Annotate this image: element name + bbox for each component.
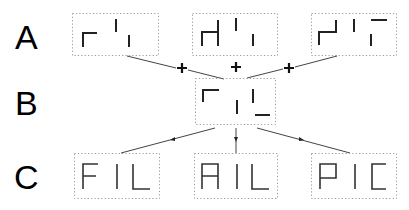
box-c1 bbox=[75, 154, 160, 199]
connector-b-c1 bbox=[121, 128, 215, 153]
box-a2 bbox=[193, 14, 278, 56]
box-c2 bbox=[195, 154, 278, 199]
plus-icon bbox=[177, 63, 187, 73]
connector-b-c3 bbox=[257, 128, 350, 153]
connector-a1-b bbox=[127, 56, 224, 79]
box-a1 bbox=[73, 14, 159, 56]
box-c3 bbox=[312, 154, 397, 199]
arrow-head-icon bbox=[170, 137, 175, 141]
plus-icon bbox=[231, 62, 241, 72]
connector-b-c2 bbox=[234, 128, 238, 153]
diagram-canvas bbox=[0, 0, 409, 210]
box-a3 bbox=[312, 14, 397, 56]
arrow-head-icon bbox=[234, 137, 238, 142]
plus-icon bbox=[284, 63, 294, 73]
box-b bbox=[196, 79, 276, 125]
